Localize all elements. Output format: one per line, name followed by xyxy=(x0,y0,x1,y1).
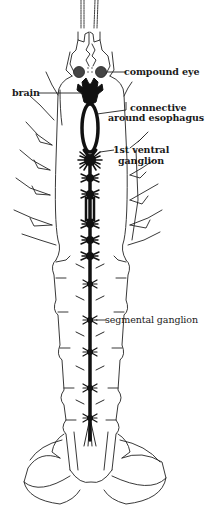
label-1st-ventral: 1st ventral xyxy=(113,145,169,155)
label-ganglion: ganglion xyxy=(118,156,164,166)
label-around-esophagus: around esophagus xyxy=(108,113,204,123)
antennae xyxy=(81,0,98,28)
nerve-cord xyxy=(76,78,104,446)
head-outline xyxy=(66,32,114,76)
brain-shape xyxy=(77,78,103,104)
crayfish-nervous-system-diagram: compound eye brain connective around eso… xyxy=(0,0,208,510)
label-segmental-ganglion: segmental ganglion xyxy=(105,315,198,325)
abdomen-left xyxy=(52,256,76,470)
compound-eyes xyxy=(74,67,107,78)
leader-lines xyxy=(38,72,126,320)
abdomen-right xyxy=(106,256,130,470)
label-compound-eye: compound eye xyxy=(124,67,199,77)
label-brain: brain xyxy=(12,88,40,98)
